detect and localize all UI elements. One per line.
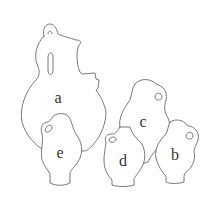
label-b: b (171, 146, 179, 163)
label-d: d (119, 152, 127, 169)
label-a: a (54, 89, 61, 106)
pottery-figure: a e c d b (0, 0, 209, 197)
label-c: c (139, 113, 146, 130)
label-e: e (56, 144, 63, 161)
